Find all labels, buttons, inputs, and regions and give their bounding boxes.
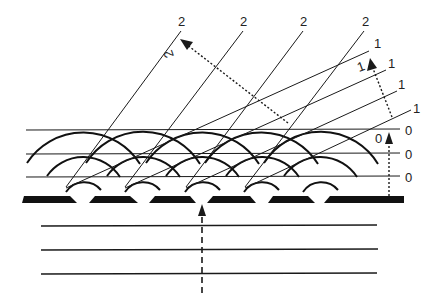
incident-wavefronts bbox=[41, 225, 378, 274]
order2-label: 2 bbox=[300, 14, 307, 29]
grating-bar bbox=[207, 196, 256, 203]
order2-direction-label: 2 bbox=[160, 48, 177, 60]
incident-wavefront bbox=[41, 273, 377, 274]
grating-bar bbox=[22, 196, 77, 203]
order1-label: 1 bbox=[398, 77, 405, 92]
order1-direction-label: 1 bbox=[355, 58, 367, 75]
huygens-wavelets bbox=[27, 132, 378, 192]
order2-wavefront bbox=[245, 31, 364, 187]
wavelet-arc bbox=[244, 182, 279, 192]
wavelet-arc bbox=[303, 182, 338, 192]
order1-wavefront bbox=[186, 91, 397, 188]
order1-label: 1 bbox=[413, 101, 420, 116]
order0-wavefront bbox=[26, 176, 400, 177]
arrowhead-icon bbox=[367, 58, 377, 71]
order0-label: 0 bbox=[405, 170, 412, 185]
order1-wavefront bbox=[66, 51, 369, 188]
arrowhead-icon bbox=[198, 204, 206, 216]
incident-direction-arrow bbox=[198, 204, 206, 293]
incident-wavefront bbox=[41, 225, 377, 226]
wavelet-arc bbox=[205, 133, 318, 164]
incident-wavefront bbox=[41, 249, 378, 250]
wavelet-arc bbox=[27, 133, 140, 164]
wavelet-arc bbox=[185, 182, 220, 192]
order0-label: 0 bbox=[405, 123, 412, 138]
order0-label: 0 bbox=[405, 147, 412, 162]
wavelet-arc bbox=[66, 182, 101, 192]
grating-bar bbox=[89, 196, 138, 203]
order0-wavefront bbox=[26, 129, 400, 130]
wavelet-arc bbox=[125, 182, 160, 192]
grating-bar bbox=[268, 196, 315, 203]
order2-label: 2 bbox=[362, 14, 369, 29]
order1-label: 1 bbox=[374, 36, 381, 51]
wavelet-arc bbox=[284, 157, 357, 177]
order2-direction-arrow bbox=[180, 39, 288, 123]
order0-direction-label: 0 bbox=[375, 131, 382, 146]
grating-bar bbox=[149, 196, 196, 203]
order0-direction-arrow bbox=[385, 132, 393, 196]
order1-label: 1 bbox=[388, 56, 395, 71]
order2-label: 2 bbox=[178, 14, 185, 29]
wavelet-arc bbox=[264, 132, 378, 164]
diffraction-diagram: 2 2 2 2 2 1 1 1 1 1 0 0 0 0 bbox=[0, 0, 442, 305]
order2-label: 2 bbox=[240, 14, 247, 29]
grating bbox=[22, 196, 404, 203]
grating-bar bbox=[324, 196, 404, 203]
second-order-wavefronts bbox=[66, 31, 364, 187]
arrowhead-icon bbox=[180, 39, 193, 50]
arrowhead-icon bbox=[385, 132, 393, 144]
order-labels: 2 2 2 2 2 1 1 1 1 1 0 0 0 0 bbox=[160, 14, 420, 185]
